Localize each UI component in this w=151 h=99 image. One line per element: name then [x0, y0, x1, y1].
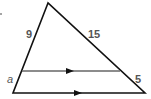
- parallel-arrow-upper-icon: [66, 68, 74, 74]
- label-left-lower: a: [7, 74, 13, 85]
- label-left-upper: 9: [26, 29, 32, 40]
- label-right-upper: 15: [88, 29, 100, 40]
- parallel-arrow-lower-icon: [74, 90, 82, 96]
- triangle-diagram: [0, 0, 151, 99]
- stray-dot: [0, 13, 2, 15]
- label-right-lower: 5: [135, 74, 141, 85]
- triangle: [13, 3, 145, 93]
